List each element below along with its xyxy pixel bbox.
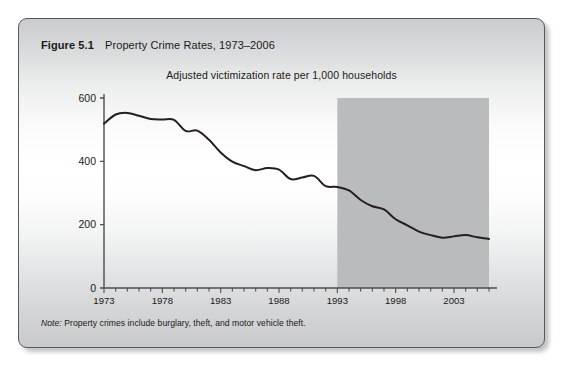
x-axis-tick-label: 1988 <box>268 295 289 306</box>
x-axis-tick-label: 1973 <box>93 295 114 306</box>
x-axis-tick-label: 1993 <box>327 295 348 306</box>
line-chart: 02004006001973197819831988199319982003 <box>19 19 545 348</box>
figure-card: Figure 5.1Property Crime Rates, 1973–200… <box>18 18 545 348</box>
note-label: Note: <box>41 318 62 328</box>
note-text: Property crimes include burglary, theft,… <box>62 318 306 328</box>
figure-note: Note: Property crimes include burglary, … <box>41 318 306 328</box>
screenshot-root: Figure 5.1Property Crime Rates, 1973–200… <box>0 0 570 371</box>
x-axis-tick-label: 2003 <box>443 295 464 306</box>
y-axis-tick-label: 200 <box>78 218 96 230</box>
y-axis-tick-label: 400 <box>78 155 96 167</box>
y-axis-tick-label: 600 <box>78 92 96 104</box>
x-axis-tick-label: 1983 <box>210 295 231 306</box>
x-axis-tick-label: 1998 <box>385 295 406 306</box>
shaded-region-highlight <box>337 98 489 288</box>
y-axis-tick-label: 0 <box>90 282 96 294</box>
x-axis-tick-label: 1978 <box>152 295 173 306</box>
